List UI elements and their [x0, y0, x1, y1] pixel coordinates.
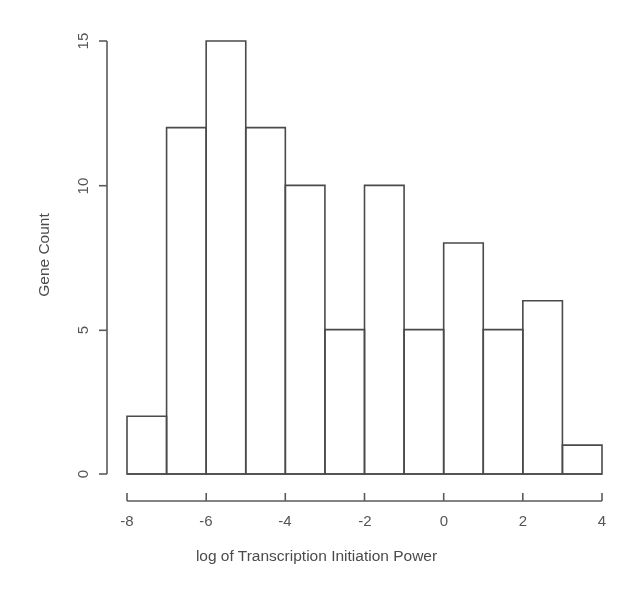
- histogram-bar: [404, 330, 444, 474]
- histogram-svg: [0, 0, 633, 594]
- histogram-bar: [483, 330, 523, 474]
- plot-area: -8 -6 -4 -2 0 2 4 0 5 10 15 Gene Count l…: [0, 0, 633, 594]
- y-tick-label-5: 5: [74, 326, 91, 335]
- y-axis-title: Gene Count: [35, 213, 53, 297]
- y-tick-label-0: 0: [74, 470, 91, 479]
- x-tick-label-5: 2: [519, 512, 528, 529]
- x-tick-label-4: 0: [440, 512, 449, 529]
- x-tick-label-6: 4: [598, 512, 607, 529]
- x-tick-label-0: -8: [120, 512, 134, 529]
- histogram-bar: [365, 185, 405, 474]
- y-tick-label-15: 15: [74, 32, 91, 49]
- histogram-bar: [246, 128, 286, 474]
- x-axis: [127, 493, 602, 501]
- histogram-bar: [444, 243, 484, 474]
- histogram-bars: [127, 41, 602, 474]
- x-tick-label-1: -6: [199, 512, 213, 529]
- x-axis-title: log of Transcription Initiation Power: [0, 547, 633, 565]
- y-tick-label-10: 10: [74, 177, 91, 194]
- x-tick-label-2: -4: [278, 512, 292, 529]
- histogram-bar: [127, 416, 167, 474]
- histogram-bar: [285, 185, 325, 474]
- histogram-bar: [325, 330, 365, 474]
- y-axis: [99, 41, 107, 474]
- histogram-figure: -8 -6 -4 -2 0 2 4 0 5 10 15 Gene Count l…: [0, 0, 633, 594]
- histogram-bar: [523, 301, 563, 474]
- histogram-bar: [562, 445, 602, 474]
- histogram-bar: [206, 41, 246, 474]
- histogram-bar: [167, 128, 207, 474]
- x-tick-label-3: -2: [358, 512, 372, 529]
